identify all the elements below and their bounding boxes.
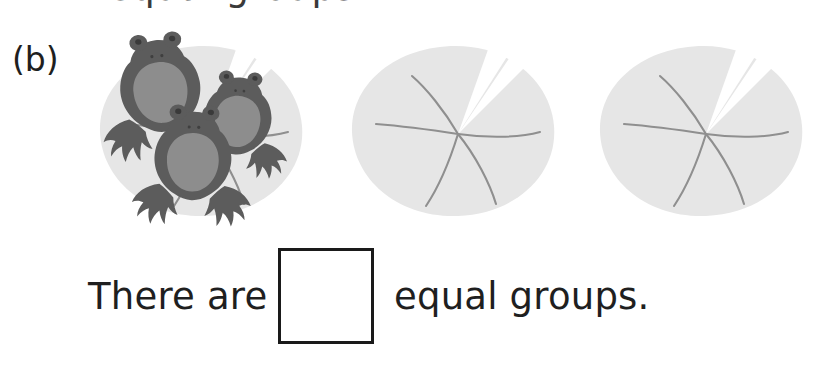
- lily-pad-3-body: [600, 44, 802, 216]
- clipped-previous-line: equal groups.: [108, 0, 528, 10]
- clipped-previous-line-text: equal groups.: [108, 0, 528, 9]
- answer-sentence: There are equal groups.: [0, 246, 838, 356]
- lily-pads-row: [0, 38, 838, 223]
- lily-pad-2-body: [352, 44, 554, 216]
- group-lily-pad-2: [340, 38, 572, 223]
- group-lily-pad-3: [588, 38, 820, 223]
- sentence-text-before: There are: [88, 278, 267, 315]
- answer-input-box[interactable]: [278, 248, 374, 344]
- group-lily-pad-1: [88, 38, 320, 223]
- sentence-text-after: equal groups.: [394, 278, 650, 315]
- worksheet-page: equal groups. (b): [0, 0, 838, 375]
